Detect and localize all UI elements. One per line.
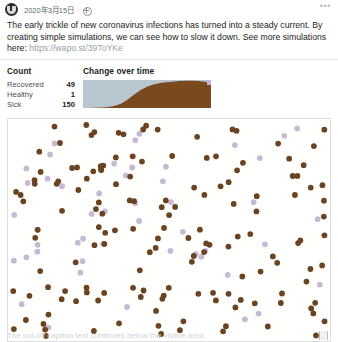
recovered-dot <box>232 142 238 148</box>
sick-dot <box>218 183 224 189</box>
sick-dot <box>254 193 260 199</box>
avatar[interactable] <box>5 3 18 16</box>
sick-dot <box>258 268 264 274</box>
post-date[interactable]: 2020年3月15日 <box>24 5 74 17</box>
sick-dot <box>74 164 80 170</box>
sick-dot <box>247 231 253 237</box>
sick-dot <box>204 155 210 161</box>
recovered-dot <box>251 199 257 205</box>
sick-dot <box>75 187 81 193</box>
sick-dot <box>163 197 169 203</box>
sick-dot <box>27 293 33 299</box>
sick-dot <box>153 245 159 251</box>
sick-dot <box>102 241 108 247</box>
recovered-dot <box>262 241 268 247</box>
recovered-dot <box>80 236 86 242</box>
sick-dot <box>226 243 232 249</box>
count-label: Recovered <box>7 80 44 90</box>
recovered-dot <box>75 240 81 246</box>
sick-dot <box>73 298 79 304</box>
sick-dot <box>32 235 38 241</box>
sick-dot <box>308 266 314 272</box>
sick-dot <box>231 201 237 207</box>
meta-separator: · <box>77 5 79 17</box>
sick-dot <box>113 181 119 187</box>
sick-dot <box>13 189 19 195</box>
sick-dot <box>130 153 136 159</box>
sick-dot <box>230 126 236 132</box>
sick-dot <box>140 126 146 132</box>
sick-dot <box>274 260 280 266</box>
sick-dot <box>240 160 246 166</box>
recovered-dot <box>180 229 186 235</box>
chart-title: Change over time <box>83 66 338 76</box>
sick-dot <box>298 237 304 243</box>
sick-dot <box>159 296 165 302</box>
sick-dot <box>177 327 183 333</box>
footer-ghost-label: The cut-off caption text continues below… <box>7 333 338 340</box>
simulation-dot-field[interactable] <box>7 118 331 342</box>
sick-dot <box>201 192 207 198</box>
recovered-dot <box>315 216 321 222</box>
recovered-dot <box>47 151 53 157</box>
sick-dot <box>46 311 52 317</box>
sick-dot <box>32 177 38 183</box>
sick-dot <box>95 297 101 303</box>
sick-dot <box>322 232 328 238</box>
washington-post-logo-icon <box>7 6 16 14</box>
sick-dot <box>57 140 63 146</box>
sick-dot <box>89 132 95 138</box>
sick-dot <box>147 249 153 255</box>
sick-dot <box>112 227 118 233</box>
more-options-icon[interactable]: ••• <box>320 2 331 10</box>
count-label: Healthy <box>7 90 33 100</box>
sick-dot <box>181 318 187 324</box>
sick-dot <box>304 278 310 284</box>
sick-dot <box>96 199 102 205</box>
sick-dot <box>141 287 147 293</box>
sick-dot <box>169 153 175 159</box>
sick-dot <box>194 134 200 140</box>
recovered-dot <box>124 304 130 310</box>
sick-dot <box>11 326 17 332</box>
stats-panel: Count Recovered 49 Healthy 1 Sick 150 Ch… <box>0 60 338 114</box>
change-over-time-chart <box>83 80 211 108</box>
sick-dot <box>310 310 316 316</box>
recovered-dot <box>89 211 95 217</box>
sick-dot <box>234 167 240 173</box>
post-meta: 2020年3月15日 · <box>24 3 92 17</box>
sick-dot <box>213 297 219 303</box>
sick-dot <box>286 156 292 162</box>
recovered-dot <box>59 183 65 189</box>
count-row: Recovered 49 <box>7 80 79 90</box>
recovered-dot <box>168 248 174 254</box>
recovered-dot <box>80 258 86 264</box>
post-header: 2020年3月15日 · ••• <box>0 0 338 18</box>
sick-dot <box>93 206 99 212</box>
sick-dot <box>55 178 61 184</box>
sick-dot <box>139 158 145 164</box>
sick-dot <box>35 227 41 233</box>
sick-dot <box>102 230 108 236</box>
sick-dot <box>195 291 201 297</box>
sick-dot <box>233 304 239 310</box>
sick-dot <box>235 233 241 239</box>
sick-dot <box>101 290 107 296</box>
sick-dot <box>37 268 43 274</box>
sick-dot <box>41 321 47 327</box>
sick-dot <box>155 126 161 132</box>
sick-dot <box>207 242 213 248</box>
sick-dot <box>226 291 232 297</box>
sick-dot <box>116 130 122 136</box>
sick-dot <box>319 262 325 268</box>
sick-dot <box>191 253 197 259</box>
count-label: Sick <box>7 100 21 110</box>
post-link[interactable]: https://wapo.st/39ToYKe <box>29 43 123 53</box>
sick-dot <box>10 288 16 294</box>
sick-dot <box>84 289 90 295</box>
sick-dot <box>308 184 314 190</box>
sick-dot <box>270 253 276 259</box>
sick-dot <box>45 284 51 290</box>
recovered-dot <box>96 190 102 196</box>
post-body: The early trickle of new coronavirus inf… <box>0 18 338 55</box>
